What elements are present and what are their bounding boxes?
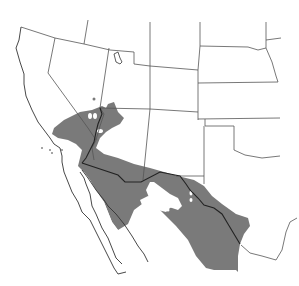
range-outlier	[93, 98, 96, 101]
island	[61, 149, 63, 151]
range-gap	[164, 204, 167, 207]
island	[41, 147, 43, 149]
map-background	[0, 0, 299, 286]
island	[49, 149, 51, 151]
range-gap	[167, 209, 170, 212]
range-gap	[93, 113, 97, 119]
range-gap	[190, 198, 193, 202]
island	[51, 152, 53, 154]
range-gap	[88, 113, 92, 119]
range-map	[0, 0, 299, 286]
map-canvas	[0, 0, 299, 286]
